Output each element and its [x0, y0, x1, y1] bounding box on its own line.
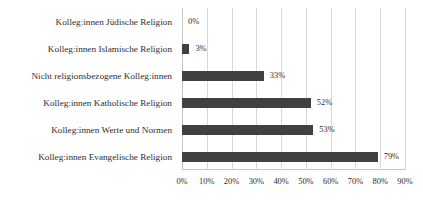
bar-row: 79%	[182, 152, 405, 162]
gridline-70%	[355, 8, 356, 170]
bar-value-label: 53%	[319, 124, 334, 135]
category-label: Kolleg:innen Islamische Religion	[0, 44, 172, 54]
gridline-50%	[306, 8, 307, 170]
bar-value-label: 52%	[317, 97, 332, 108]
category-label-axis: Kolleg:innen Jüdische ReligionKolleg:inn…	[0, 0, 178, 170]
category-label: Kolleg:innen Katholische Religion	[0, 98, 172, 108]
bar-row: 0%	[182, 17, 405, 27]
gridline-0%	[182, 8, 183, 170]
gridline-40%	[281, 8, 282, 170]
category-label: Kolleg:innen Werte und Normen	[0, 125, 172, 135]
bar-value-label: 3%	[195, 43, 206, 54]
bar	[182, 44, 189, 54]
bar-chart: Kolleg:innen Jüdische ReligionKolleg:inn…	[0, 0, 423, 204]
x-tick-label: 90%	[397, 176, 412, 188]
gridline-30%	[256, 8, 257, 170]
bar-row: 3%	[182, 44, 405, 54]
bar-row: 33%	[182, 71, 405, 81]
x-tick-label: 30%	[249, 176, 264, 188]
x-tick-label: 10%	[199, 176, 214, 188]
bar-row: 53%	[182, 125, 405, 135]
gridline-90%	[405, 8, 406, 170]
gridline-60%	[331, 8, 332, 170]
bar-value-label: 79%	[384, 151, 399, 162]
category-label: Kolleg:innen Evangelische Religion	[0, 152, 172, 162]
x-axis-tick-labels: 0%10%20%30%40%50%60%70%80%90%	[182, 176, 405, 192]
bar-row: 52%	[182, 98, 405, 108]
bar	[182, 71, 264, 81]
plot-area: 0%3%33%52%53%79%	[182, 8, 405, 170]
bar-value-label: 33%	[270, 70, 285, 81]
x-tick-label: 80%	[373, 176, 388, 188]
category-label: Nicht religionsbezogene Kolleg:innen	[0, 71, 172, 81]
x-tick-label: 20%	[224, 176, 239, 188]
bar	[182, 125, 313, 135]
gridline-80%	[380, 8, 381, 170]
category-label: Kolleg:innen Jüdische Religion	[0, 17, 172, 27]
x-tick-label: 50%	[298, 176, 313, 188]
x-tick-label: 0%	[176, 176, 187, 188]
gridline-20%	[232, 8, 233, 170]
bar	[182, 98, 311, 108]
gridline-10%	[207, 8, 208, 170]
bar	[182, 152, 378, 162]
x-tick-label: 70%	[348, 176, 363, 188]
x-axis-baseline	[182, 169, 405, 170]
bar-value-label: 0%	[188, 16, 199, 27]
x-tick-label: 40%	[273, 176, 288, 188]
x-tick-label: 60%	[323, 176, 338, 188]
